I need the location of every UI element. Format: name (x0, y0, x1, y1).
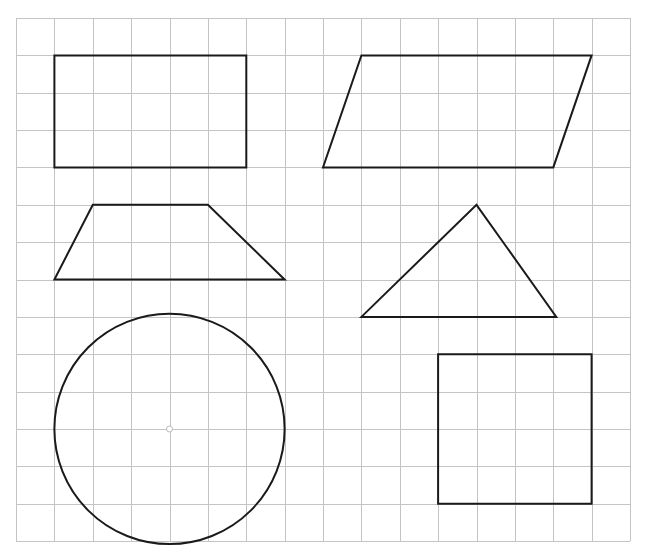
circle-center-point (167, 426, 173, 432)
square-shape (438, 354, 591, 504)
parallelogram-shape (323, 55, 592, 167)
rectangle-shape (54, 55, 246, 167)
triangle-shape (361, 205, 556, 317)
shapes-layer (54, 55, 591, 544)
shapes-on-grid-canvas (0, 0, 647, 557)
